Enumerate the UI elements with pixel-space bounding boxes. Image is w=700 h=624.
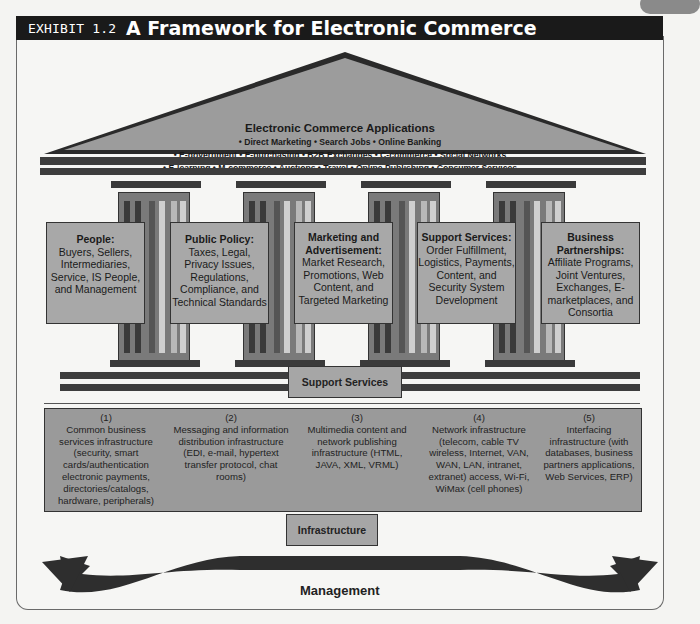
infrastructure-item: (4) Network infrastructure (telecom, cab…: [425, 412, 533, 495]
divider: [44, 403, 640, 404]
infrastructure-item: (1) Common business services infrastruct…: [51, 412, 161, 506]
pillar-people: People: Buyers, Sellers, Intermediaries,…: [46, 222, 145, 324]
exhibit-header: EXHIBIT 1.2 A Framework for Electronic C…: [16, 16, 663, 40]
pillar-body: Order Fulfillment, Logistics, Payments, …: [418, 244, 514, 306]
infrastructure-item: (3) Multimedia content and network publi…: [299, 412, 415, 471]
pillar-heading: Marketing and Advertisement:: [295, 231, 392, 256]
column-capital: [111, 181, 201, 188]
pillar-body: Market Research, Promotions, Web Content…: [299, 256, 389, 306]
pillar-support-services: Support Services: Order Fulfillment, Log…: [417, 222, 516, 324]
pillar-public-policy: Public Policy: Taxes, Legal, Privacy Iss…: [170, 222, 269, 324]
entablature-bar: [40, 168, 646, 175]
column-capital: [361, 181, 451, 188]
column-capital: [236, 181, 326, 188]
pillar-heading: Business Partnerships:: [542, 231, 639, 256]
infrastructure-item: (5) Interfacing infrastructure (with dat…: [541, 412, 637, 483]
pillar-heading: Public Policy:: [171, 233, 268, 246]
infrastructure-panel: (1) Common business services infrastruct…: [44, 408, 642, 512]
infrastructure-label: Infrastructure: [286, 514, 378, 546]
pillar-heading: People:: [47, 233, 144, 246]
entablature-bar: [40, 157, 646, 165]
page-tab-corner: [640, 0, 700, 14]
roof-title: Electronic Commerce Applications: [140, 122, 540, 134]
pillar-heading: Support Services:: [418, 231, 515, 244]
pillar-marketing: Marketing and Advertisement: Market Rese…: [294, 222, 393, 324]
pillar-body: Buyers, Sellers, Intermediaries, Service…: [51, 246, 140, 296]
column-capital: [486, 181, 576, 188]
column-base: [110, 360, 200, 367]
pillar-body: Affiliate Programs, Joint Ventures, Exch…: [548, 256, 634, 318]
pillar-business-partnerships: Business Partnerships: Affiliate Program…: [541, 222, 640, 324]
column-base: [485, 360, 575, 367]
management-label: Management: [300, 583, 379, 598]
pillar-body: Taxes, Legal, Privacy Issues, Regulation…: [172, 246, 267, 308]
exhibit-number: EXHIBIT 1.2: [28, 21, 116, 36]
support-services-label: Support Services: [288, 366, 402, 398]
exhibit-title: A Framework for Electronic Commerce: [126, 17, 537, 39]
infrastructure-item: (2) Messaging and information distributi…: [173, 412, 289, 483]
management-double-arrow-icon: [40, 548, 660, 608]
roof-line: • Direct Marketing • Search Jobs • Onlin…: [140, 136, 540, 149]
